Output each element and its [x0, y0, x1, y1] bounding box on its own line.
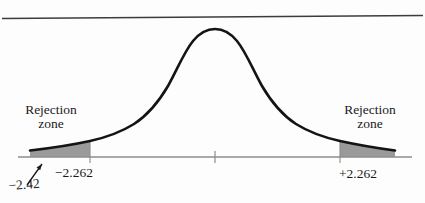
- critical-value-left-label: −2.262: [55, 166, 93, 180]
- rejection-zone-figure: Rejection zone Rejection zone −2.262 +2.…: [0, 0, 425, 203]
- bell-curve: [30, 29, 395, 151]
- top-rule: [2, 16, 423, 19]
- test-statistic-label: −2.42: [8, 177, 40, 193]
- rejection-zone-label-right: Rejection zone: [327, 103, 413, 131]
- critical-value-right-label: +2.262: [339, 167, 377, 181]
- rejection-zone-label-right-line1: Rejection: [327, 103, 413, 117]
- rejection-zone-label-left-line2: zone: [8, 117, 94, 131]
- rejection-zone-label-left-line1: Rejection: [8, 103, 94, 117]
- rejection-zone-label-right-line2: zone: [327, 117, 413, 131]
- rejection-zone-label-left: Rejection zone: [8, 103, 94, 131]
